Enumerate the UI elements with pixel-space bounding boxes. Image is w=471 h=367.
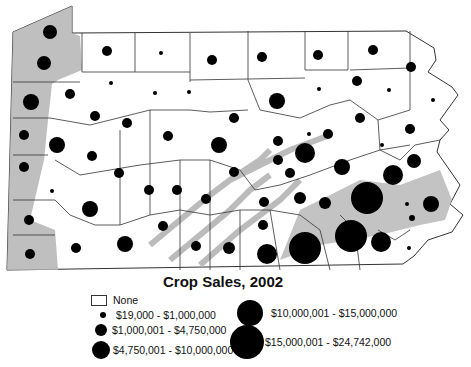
county-crop-sales-symbol xyxy=(43,25,57,39)
legend-class-5-label: $15,000,001 - $24,742,000 xyxy=(265,336,391,348)
legend-dot-medium-icon xyxy=(95,324,107,336)
county-crop-sales-symbol xyxy=(371,232,391,252)
county-crop-sales-symbol xyxy=(257,52,267,62)
county-crop-sales-symbol xyxy=(405,124,415,134)
map-title: Crop Sales, 2002 xyxy=(163,273,283,290)
county-crop-sales-symbol xyxy=(351,182,383,214)
county-crop-sales-symbol xyxy=(229,167,239,177)
county-crop-sales-symbol xyxy=(187,90,191,94)
county-crop-sales-symbol xyxy=(387,88,391,92)
county-crop-sales-symbol xyxy=(23,94,39,110)
legend-class-2: $1,000,001 - $4,750,000 xyxy=(95,324,226,336)
county-crop-sales-symbol xyxy=(431,98,435,102)
county-crop-sales-symbol xyxy=(207,55,217,65)
county-crop-sales-symbol xyxy=(109,81,113,85)
county-crop-sales-symbol xyxy=(257,244,277,264)
county-crop-sales-symbol xyxy=(24,215,34,225)
county-crop-sales-symbol xyxy=(406,62,416,72)
county-crop-sales-symbol xyxy=(71,243,81,253)
county-crop-sales-symbol xyxy=(335,220,367,252)
county-crop-sales-symbol xyxy=(317,87,321,91)
county-crop-sales-symbol xyxy=(259,197,269,207)
county-crop-sales-symbol xyxy=(191,241,201,251)
county-crop-sales-symbol xyxy=(409,215,415,221)
county-crop-sales-symbol xyxy=(273,136,283,146)
county-crop-sales-symbol xyxy=(307,132,311,136)
county-crop-sales-symbol xyxy=(294,192,306,204)
county-crop-sales-symbol xyxy=(383,165,403,185)
legend-dot-xlarge-icon xyxy=(237,300,263,326)
county-crop-sales-symbol xyxy=(159,51,163,55)
county-crop-sales-symbol xyxy=(423,196,439,212)
county-crop-sales-symbol xyxy=(82,201,98,217)
legend-class-3: $4,750,001 - $10,000,000 xyxy=(92,341,233,359)
county-crop-sales-symbol xyxy=(102,46,112,56)
county-crop-sales-symbol xyxy=(368,45,378,55)
pennsylvania-county-map xyxy=(0,0,471,275)
county-crop-sales-symbol xyxy=(269,93,285,109)
county-crop-sales-symbol xyxy=(407,154,421,168)
county-crop-sales-symbol xyxy=(285,168,295,178)
county-crop-sales-symbol xyxy=(90,111,100,121)
county-crop-sales-symbol xyxy=(380,143,384,147)
county-crop-sales-symbol xyxy=(289,232,321,264)
county-crop-sales-symbol xyxy=(223,242,235,254)
legend-dot-xxlarge-icon xyxy=(230,325,264,359)
county-crop-sales-symbol xyxy=(158,221,168,231)
county-crop-sales-symbol xyxy=(87,151,97,161)
county-crop-sales-symbol xyxy=(319,197,331,209)
county-crop-sales-symbol xyxy=(114,168,124,178)
county-crop-sales-symbol xyxy=(295,143,315,163)
legend-none-swatch xyxy=(91,295,107,306)
legend-none-label: None xyxy=(113,294,138,306)
county-crop-sales-symbol xyxy=(258,220,268,230)
county-crop-sales-symbol xyxy=(163,131,173,141)
county-crop-sales-symbol xyxy=(201,194,211,204)
county-crop-sales-symbol xyxy=(352,76,362,86)
county-crop-sales-symbol xyxy=(25,249,35,259)
legend-class-2-label: $1,000,001 - $4,750,000 xyxy=(112,324,226,336)
county-crop-sales-symbol xyxy=(122,118,132,128)
county-crop-sales-symbol xyxy=(19,162,29,172)
county-crop-sales-symbol xyxy=(407,246,411,250)
legend-dot-large-icon xyxy=(92,341,110,359)
legend-none: None xyxy=(91,294,138,306)
county-crop-sales-symbol xyxy=(355,113,365,123)
legend-class-4: $10,000,001 - $15,000,000 xyxy=(237,300,397,326)
county-crop-sales-symbol xyxy=(334,159,350,175)
county-crop-sales-symbol xyxy=(49,137,65,153)
county-crop-sales-symbol xyxy=(153,91,157,95)
county-crop-sales-symbol xyxy=(405,202,409,206)
county-crop-sales-symbol xyxy=(65,89,75,99)
county-crop-sales-symbol xyxy=(37,56,51,70)
county-crop-sales-symbol xyxy=(19,130,29,140)
county-crop-sales-symbol xyxy=(144,185,154,195)
county-crop-sales-symbol xyxy=(313,50,323,60)
county-crop-sales-symbol xyxy=(117,236,133,252)
legend-dot-small-icon xyxy=(100,312,106,318)
county-crop-sales-symbol xyxy=(211,137,227,153)
legend-class-4-label: $10,000,001 - $15,000,000 xyxy=(271,307,397,319)
legend-class-3-label: $4,750,001 - $10,000,000 xyxy=(113,344,233,356)
county-crop-sales-symbol xyxy=(172,185,182,195)
county-crop-sales-symbol xyxy=(50,189,54,193)
legend-class-5: $15,000,001 - $24,742,000 xyxy=(230,325,391,359)
county-crop-sales-symbol xyxy=(323,129,333,139)
legend-class-1-label: $19,000 - $1,000,000 xyxy=(116,309,216,321)
county-crop-sales-symbol xyxy=(273,155,283,165)
legend-class-1: $19,000 - $1,000,000 xyxy=(100,309,216,321)
county-crop-sales-symbol xyxy=(229,113,239,123)
